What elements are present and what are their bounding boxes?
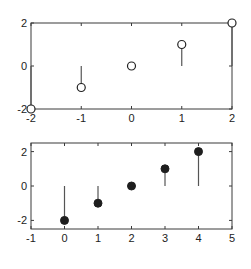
y-tick-label: 2 [21, 17, 27, 29]
x-tick-label: 1 [95, 232, 101, 244]
stem-marker [195, 148, 203, 156]
x-tick-label: -2 [26, 112, 36, 124]
x-tick-label: 4 [195, 232, 201, 244]
stem-marker [161, 165, 169, 173]
stem-marker [128, 182, 136, 190]
y-tick-label: 2 [21, 146, 27, 158]
y-tick-label: -2 [17, 103, 27, 115]
stem-marker [128, 62, 136, 70]
y-tick-label: -2 [17, 214, 27, 226]
x-tick-label: 5 [229, 232, 235, 244]
x-tick-label: 2 [128, 232, 134, 244]
x-tick-label: 1 [179, 112, 185, 124]
x-tick-label: 2 [229, 112, 235, 124]
stem-marker [94, 199, 102, 207]
y-tick-label: 0 [21, 180, 27, 192]
stem-marker [228, 19, 236, 27]
top-stem-plot: -2-1012-202 [17, 17, 236, 124]
stem-marker [77, 84, 85, 92]
stem-marker [27, 105, 35, 113]
x-tick-label: -1 [26, 232, 36, 244]
x-tick-label: 0 [128, 112, 134, 124]
x-tick-label: -1 [76, 112, 86, 124]
y-tick-label: 0 [21, 60, 27, 72]
bottom-stem-plot: -1012345-202 [17, 143, 235, 244]
x-tick-label: 0 [61, 232, 67, 244]
stem-marker [61, 216, 69, 224]
stem-plots-figure: -2-1012-202 -1012345-202 [0, 0, 251, 269]
x-tick-label: 3 [162, 232, 168, 244]
stem-marker [178, 41, 186, 49]
